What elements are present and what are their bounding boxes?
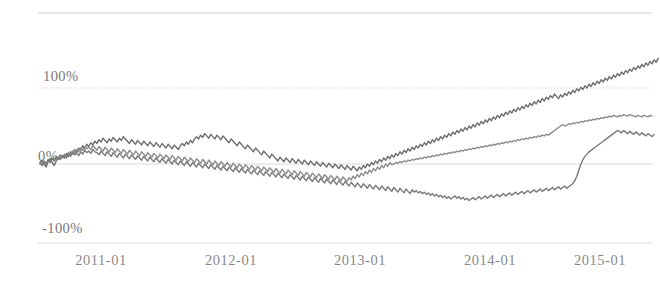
series-layer [40, 58, 658, 200]
x-tick-label-2012-01: 2012-01 [205, 252, 257, 269]
x-tick-label-2011-01: 2011-01 [75, 252, 126, 269]
x-tick-label-2014-01: 2014-01 [464, 252, 516, 269]
line-chart-plot [0, 0, 660, 294]
chart-container: 100% 0% -100% 2011-01 2012-01 2013-01 20… [0, 0, 660, 294]
series-line-series_2 [40, 115, 652, 182]
x-tick-label-2013-01: 2013-01 [334, 252, 386, 269]
y-tick-label-100: 100% [43, 68, 78, 85]
y-tick-label-0: 0% [38, 148, 58, 165]
x-tick-label-2015-01: 2015-01 [574, 252, 626, 269]
y-tick-label-neg100: -100% [42, 220, 83, 237]
